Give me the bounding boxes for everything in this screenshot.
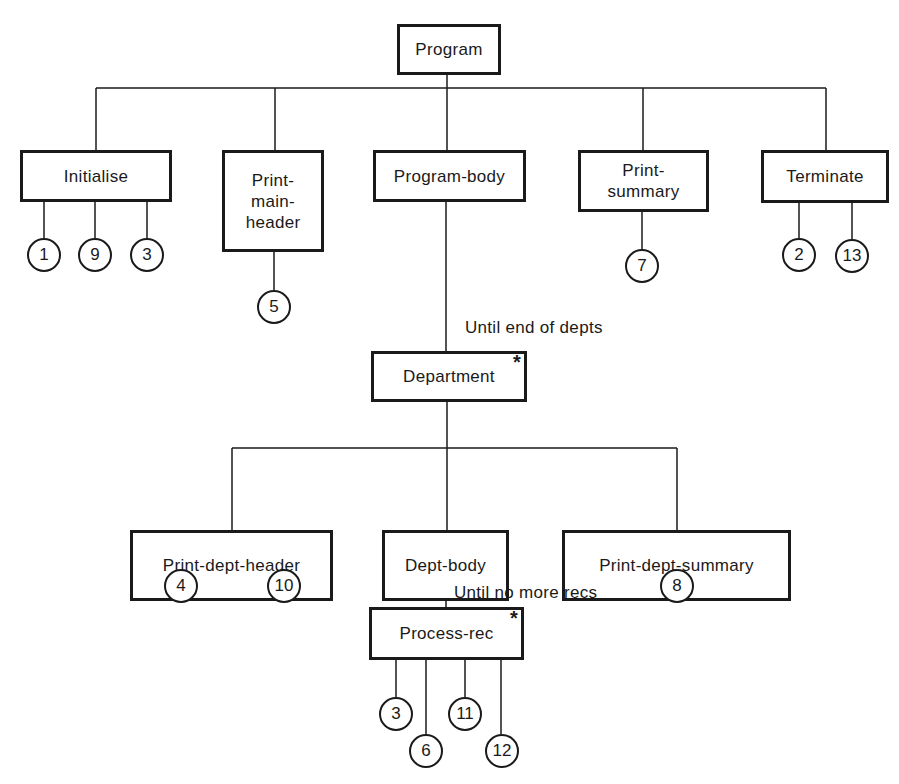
operation-circle: 10 [267, 569, 301, 603]
iteration-asterisk-icon: * [513, 352, 521, 373]
node-process-rec-label: Process-rec [400, 623, 494, 644]
iteration-asterisk-icon: * [510, 608, 518, 629]
node-print-main-header: Print- main- header [222, 150, 324, 252]
node-print-main-header-line3: header [246, 212, 301, 233]
operation-circle: 3 [130, 238, 164, 272]
operation-circle: 5 [257, 290, 291, 324]
operation-number: 13 [843, 246, 862, 266]
node-program: Program [397, 24, 501, 75]
operation-number: 7 [637, 256, 646, 276]
node-department: Department * [371, 351, 527, 402]
node-terminate: Terminate [761, 150, 889, 203]
condition-until-no-more-recs: Until no more recs [454, 583, 597, 603]
operation-circle: 1 [27, 238, 61, 272]
node-print-dept-header: Print-dept-header [130, 530, 333, 601]
operation-number: 10 [275, 576, 294, 596]
node-department-label: Department [403, 366, 495, 387]
operation-circle: 13 [835, 239, 869, 273]
node-print-summary: Print- summary [578, 150, 709, 212]
node-program-label: Program [415, 39, 482, 60]
operation-circle: 3 [379, 697, 413, 731]
operation-circle: 2 [782, 238, 816, 272]
operation-circle: 12 [485, 734, 519, 768]
operation-circle: 9 [78, 238, 112, 272]
operation-circle: 11 [448, 697, 482, 731]
node-program-body-label: Program-body [394, 166, 505, 187]
operation-circle: 4 [164, 569, 198, 603]
node-print-summary-line2: summary [608, 181, 680, 202]
operation-number: 11 [456, 704, 474, 724]
node-print-summary-line1: Print- [622, 160, 664, 181]
node-initialise-label: Initialise [64, 166, 128, 187]
condition-until-end-of-depts: Until end of depts [465, 318, 603, 338]
node-program-body: Program-body [373, 150, 526, 202]
operation-number: 2 [794, 245, 803, 265]
operation-number: 12 [493, 741, 512, 761]
operation-number: 9 [90, 245, 99, 265]
node-dept-body-label: Dept-body [405, 555, 486, 576]
operation-number: 4 [176, 576, 185, 596]
operation-number: 6 [421, 741, 430, 761]
node-print-main-header-line1: Print- [252, 170, 294, 191]
node-initialise: Initialise [20, 150, 172, 202]
node-process-rec: Process-rec * [369, 607, 524, 660]
node-terminate-label: Terminate [786, 166, 863, 187]
operation-number: 5 [269, 297, 278, 317]
operation-number: 1 [39, 245, 48, 265]
operation-number: 8 [672, 576, 681, 596]
operation-circle: 7 [625, 249, 659, 283]
operation-circle: 6 [409, 734, 443, 768]
operation-number: 3 [142, 245, 151, 265]
node-print-main-header-line2: main- [251, 191, 295, 212]
operation-circle: 8 [660, 569, 694, 603]
operation-number: 3 [391, 704, 400, 724]
